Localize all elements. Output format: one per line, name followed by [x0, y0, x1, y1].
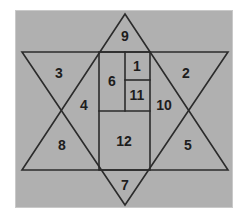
region-label-2: 2 [182, 65, 190, 81]
star-of-david-diagram: 1 2 3 4 5 6 7 8 9 10 11 12 [0, 0, 242, 218]
region-label-8: 8 [58, 137, 66, 153]
region-label-4: 4 [80, 97, 88, 113]
figure-container: 1 2 3 4 5 6 7 8 9 10 11 12 [0, 0, 242, 218]
region-label-9: 9 [121, 28, 129, 44]
region-label-6: 6 [108, 73, 116, 89]
region-label-1: 1 [133, 58, 141, 74]
region-label-3: 3 [55, 65, 63, 81]
region-label-12: 12 [116, 133, 132, 149]
region-label-7: 7 [121, 177, 129, 193]
region-label-11: 11 [130, 87, 145, 103]
region-label-5: 5 [184, 137, 192, 153]
region-label-10: 10 [156, 97, 172, 113]
